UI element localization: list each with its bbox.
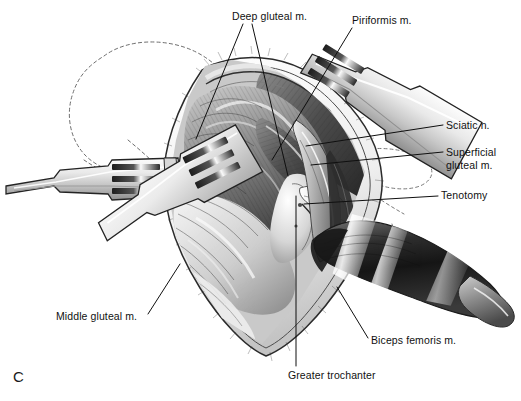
label-greater-trochanter: Greater trochanter bbox=[288, 369, 376, 382]
panel-letter: C bbox=[13, 368, 24, 385]
label-middle-gluteal: Middle gluteal m. bbox=[56, 310, 137, 323]
label-superficial-gluteal: Superficial gluteal m. bbox=[446, 146, 496, 171]
label-tenotomy: Tenotomy bbox=[441, 189, 487, 202]
label-biceps-femoris: Biceps femoris m. bbox=[371, 334, 456, 347]
label-piriformis: Piriformis m. bbox=[352, 14, 412, 27]
label-sciatic-nerve: Sciatic n. bbox=[446, 119, 490, 132]
label-deep-gluteal: Deep gluteal m. bbox=[232, 10, 307, 23]
figure-container: Deep gluteal m.Piriformis m.Sciatic n.Su… bbox=[0, 0, 521, 401]
